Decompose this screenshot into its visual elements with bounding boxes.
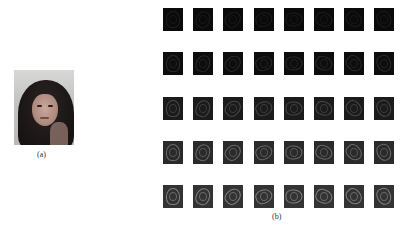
gabor-response-thumb	[314, 52, 334, 75]
gabor-response-thumb	[193, 8, 213, 31]
gabor-response-thumb	[314, 141, 334, 164]
mouth	[40, 117, 49, 119]
gabor-response-thumb	[193, 97, 213, 120]
gabor-response-thumb	[163, 52, 183, 75]
gabor-response-thumb	[344, 97, 364, 120]
gabor-response-thumb	[254, 185, 274, 208]
face-region	[32, 94, 58, 126]
gabor-response-thumb	[254, 97, 274, 120]
gabor-response-thumb	[193, 185, 213, 208]
left-eye	[37, 105, 42, 107]
gabor-response-thumb	[193, 52, 213, 75]
caption-b: (b)	[272, 213, 281, 221]
gabor-response-thumb	[223, 52, 243, 75]
gabor-response-thumb	[223, 97, 243, 120]
gabor-response-thumb	[163, 141, 183, 164]
gabor-response-thumb	[314, 8, 334, 31]
right-eye	[48, 105, 53, 107]
gabor-response-thumb	[374, 8, 394, 31]
gabor-response-thumb	[284, 185, 304, 208]
gabor-response-thumb	[163, 185, 183, 208]
gabor-response-thumb	[193, 141, 213, 164]
gabor-response-thumb	[374, 52, 394, 75]
gabor-response-thumb	[223, 185, 243, 208]
gabor-response-thumb	[284, 97, 304, 120]
gabor-response-thumb	[344, 141, 364, 164]
gabor-response-thumb	[163, 97, 183, 120]
gabor-response-thumb	[344, 185, 364, 208]
gabor-response-thumb	[314, 97, 334, 120]
caption-a: (a)	[37, 151, 46, 159]
gabor-response-thumb	[254, 52, 274, 75]
gabor-response-thumb	[254, 8, 274, 31]
gabor-response-thumb	[344, 52, 364, 75]
gabor-response-thumb	[284, 8, 304, 31]
gabor-response-thumb	[374, 141, 394, 164]
gabor-response-thumb	[314, 185, 334, 208]
gabor-response-thumb	[284, 52, 304, 75]
input-face-image	[14, 70, 74, 145]
gabor-response-thumb	[223, 141, 243, 164]
gabor-response-thumb	[374, 97, 394, 120]
gabor-response-thumb	[374, 185, 394, 208]
gabor-response-thumb	[163, 8, 183, 31]
hand-region	[50, 122, 68, 145]
gabor-response-thumb	[254, 141, 274, 164]
gabor-response-thumb	[344, 8, 364, 31]
gabor-response-thumb	[284, 141, 304, 164]
gabor-response-thumb	[223, 8, 243, 31]
